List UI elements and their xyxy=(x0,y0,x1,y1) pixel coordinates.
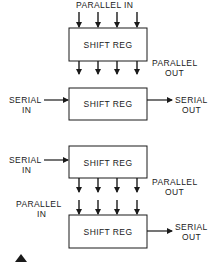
parallel-in-label: PARALLEL IN xyxy=(76,1,133,10)
serial-in-label-line1: SERIAL xyxy=(9,156,42,165)
serial-out-label-line1: SERIAL xyxy=(175,96,208,105)
serial-out-label-line2: OUT xyxy=(182,233,201,242)
serial-out-label-line1: SERIAL xyxy=(175,223,208,232)
serial-out-label-line2: OUT xyxy=(182,106,201,115)
shift-reg-label: SHIFT REG xyxy=(69,99,147,109)
sipo-block xyxy=(44,146,147,192)
parallel-out-arrows xyxy=(79,178,137,192)
parallel-in-arrows xyxy=(79,12,137,27)
serial-in-label-line1: SERIAL xyxy=(9,96,42,105)
parallel-out-label-line1: PARALLEL xyxy=(152,59,198,68)
parallel-in-label-line1: PARALLEL xyxy=(16,200,62,209)
piso-block xyxy=(69,200,172,248)
shift-reg-label: SHIFT REG xyxy=(69,158,147,168)
parallel-out-label-line1: PARALLEL xyxy=(152,178,198,187)
serial-in-label-line2: IN xyxy=(22,166,31,175)
parallel-out-arrows xyxy=(79,61,137,74)
shift-reg-label: SHIFT REG xyxy=(69,227,147,237)
parallel-in-arrows xyxy=(79,200,137,214)
parallel-out-label-line2: OUT xyxy=(165,188,184,197)
parallel-out-label-line2: OUT xyxy=(165,69,184,78)
parallel-in-label-line2: IN xyxy=(37,210,46,219)
shift-reg-label: SHIFT REG xyxy=(69,40,147,50)
serial-in-label-line2: IN xyxy=(22,106,31,115)
triangle-marker-icon xyxy=(15,254,27,262)
